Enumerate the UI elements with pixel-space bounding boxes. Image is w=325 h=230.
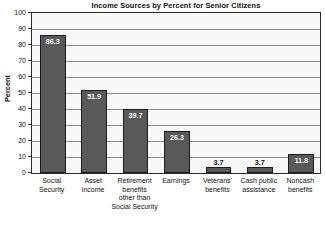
bar-value-label: 51.9 <box>82 93 106 101</box>
x-axis-label-line: benefits <box>273 186 325 195</box>
bar-chart: Income Sources by Percent for Senior Cit… <box>0 0 325 230</box>
plot-area: 86.351.939.726.33.73.711.8 <box>31 12 321 174</box>
y-tick-label: 80 <box>0 41 26 48</box>
y-tick-label: 70 <box>0 57 26 64</box>
bar: 11.8 <box>288 154 314 173</box>
bar-value-label: 3.7 <box>248 159 272 167</box>
y-tick-label: 100 <box>0 9 26 16</box>
y-tick-label: 20 <box>0 137 26 144</box>
y-tick-label: 30 <box>0 121 26 128</box>
bar: 51.9 <box>81 90 107 173</box>
bar: 86.3 <box>40 35 66 173</box>
x-axis-label-line: benefits <box>107 186 162 195</box>
y-tick-label: 50 <box>0 89 26 96</box>
bar: 39.7 <box>123 109 149 173</box>
gridline <box>32 29 320 30</box>
x-axis-label: Noncashbenefits <box>273 177 325 194</box>
bar-value-label: 39.7 <box>124 112 148 120</box>
bar: 3.7 <box>247 167 273 173</box>
gridline <box>32 61 320 62</box>
y-tick-label: 60 <box>0 73 26 80</box>
x-axis-label-line: Noncash <box>273 177 325 186</box>
bar-value-label: 11.8 <box>289 157 313 165</box>
chart-title: Income Sources by Percent for Senior Cit… <box>30 1 322 10</box>
gridline <box>32 77 320 78</box>
gridline <box>32 93 320 94</box>
bar: 3.7 <box>206 167 232 173</box>
bar: 26.3 <box>164 131 190 173</box>
gridline <box>32 125 320 126</box>
y-tick-label: 40 <box>0 105 26 112</box>
bar-value-label: 3.7 <box>207 159 231 167</box>
y-tick-label: 0 <box>0 169 26 176</box>
gridline <box>32 45 320 46</box>
y-tick-label: 90 <box>0 25 26 32</box>
bar-value-label: 86.3 <box>41 38 65 46</box>
x-axis-label-line: Social Security <box>107 203 162 212</box>
x-axis-label-line: other than <box>107 194 162 203</box>
bar-value-label: 26.3 <box>165 134 189 142</box>
gridline <box>32 109 320 110</box>
y-tick-label: 10 <box>0 153 26 160</box>
